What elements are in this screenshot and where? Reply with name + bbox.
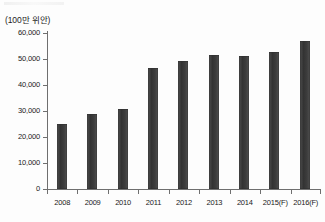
x-tick-label: 2009 xyxy=(77,198,107,207)
y-tick-label: 10,000 xyxy=(18,158,40,167)
y-tick-label: 50,000 xyxy=(18,54,40,63)
plot-area: 60,00050,00040,00030,00020,00010,0000 xyxy=(47,33,320,189)
bar-slot xyxy=(168,33,198,189)
bar xyxy=(209,55,219,189)
x-tick-mark xyxy=(320,190,321,194)
bar-series xyxy=(47,33,320,189)
bar xyxy=(87,114,97,189)
x-tick-mark xyxy=(47,190,48,194)
bar-slot xyxy=(259,33,289,189)
x-axis-labels: 20082009201020112012201320142015(F)2016(… xyxy=(47,198,321,207)
bar-slot xyxy=(229,33,259,189)
x-tick-label: 2008 xyxy=(47,198,77,207)
x-tick-mark xyxy=(77,190,78,194)
bar xyxy=(269,52,279,189)
scan-artifact xyxy=(4,2,64,5)
bar-slot xyxy=(199,33,229,189)
x-tick-slot xyxy=(138,190,168,194)
y-axis-unit-label: (100만 위안) xyxy=(5,13,50,25)
x-axis-ticks xyxy=(47,190,321,194)
x-tick-mark xyxy=(230,190,231,194)
x-tick-label: 2011 xyxy=(138,198,168,207)
x-tick-label: 2010 xyxy=(108,198,138,207)
bar xyxy=(57,124,67,189)
bar xyxy=(178,61,188,189)
bar-slot xyxy=(138,33,168,189)
y-tick-label: 20,000 xyxy=(18,132,40,141)
y-tick-label: 0 xyxy=(36,184,40,193)
bar xyxy=(148,68,158,189)
x-tick-mark xyxy=(199,190,200,194)
bar xyxy=(300,41,310,189)
x-tick-slot xyxy=(230,190,260,194)
x-tick-slot xyxy=(291,190,321,194)
x-tick-slot xyxy=(199,190,229,194)
bar-chart: (100만 위안) 60,00050,00040,00030,00020,000… xyxy=(0,0,325,222)
x-tick-mark xyxy=(260,190,261,194)
x-tick-label: 2014 xyxy=(230,198,260,207)
x-tick-slot xyxy=(77,190,107,194)
bar xyxy=(239,56,249,189)
x-tick-label: 2013 xyxy=(199,198,229,207)
y-tick-label: 60,000 xyxy=(18,28,40,37)
x-tick-mark xyxy=(169,190,170,194)
x-tick-slot xyxy=(47,190,77,194)
x-tick-mark xyxy=(291,190,292,194)
x-tick-slot xyxy=(108,190,138,194)
x-tick-label: 2012 xyxy=(169,198,199,207)
x-tick-label: 2015(F) xyxy=(260,198,290,207)
bar-slot xyxy=(77,33,107,189)
x-tick-mark xyxy=(108,190,109,194)
bar xyxy=(118,109,128,189)
x-tick-label: 2016(F) xyxy=(291,198,321,207)
x-tick-mark xyxy=(138,190,139,194)
bar-slot xyxy=(47,33,77,189)
x-tick-slot xyxy=(169,190,199,194)
y-tick-label: 30,000 xyxy=(18,106,40,115)
bar-slot xyxy=(290,33,320,189)
y-tick-label: 40,000 xyxy=(18,80,40,89)
x-tick-slot xyxy=(260,190,290,194)
bar-slot xyxy=(108,33,138,189)
